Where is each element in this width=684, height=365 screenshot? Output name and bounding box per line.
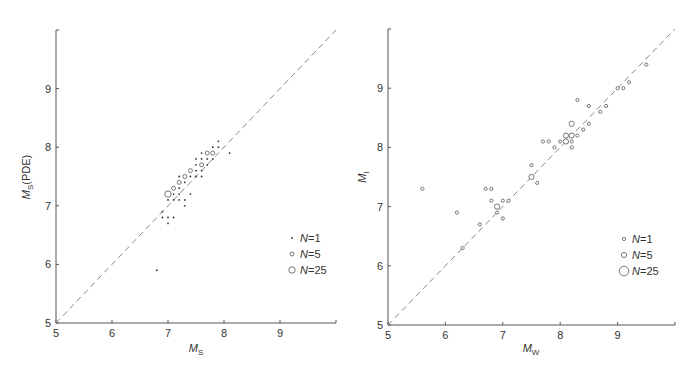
x-tick-label: 6 <box>109 327 115 339</box>
legend-marker-icon <box>622 237 625 240</box>
y-tick-label: 9 <box>377 82 383 94</box>
data-point <box>195 164 197 166</box>
data-point <box>195 170 197 172</box>
data-point <box>455 211 458 214</box>
data-point <box>547 140 550 143</box>
data-point <box>201 158 203 160</box>
left-legend: N=1N=5N=25 <box>289 232 327 276</box>
data-point <box>569 121 574 126</box>
data-point <box>211 151 215 155</box>
right-axes: 5678956789 <box>377 29 675 341</box>
data-point <box>461 246 464 249</box>
data-point <box>188 169 192 173</box>
legend-marker-icon <box>291 237 293 239</box>
data-point <box>173 193 175 195</box>
data-point <box>229 152 231 154</box>
data-point <box>195 158 197 160</box>
data-point <box>495 211 498 214</box>
left-scatter-plot: 5678956789 MS MS(PDE) N=1N=5N=25 <box>20 30 336 357</box>
x-tick-label: 7 <box>500 329 506 341</box>
data-point <box>582 128 585 131</box>
y-tick-label: 6 <box>377 260 383 272</box>
y-tick-label: 5 <box>377 319 383 331</box>
left-x-axis-label: MS <box>189 342 204 357</box>
data-point <box>173 199 175 201</box>
data-point <box>570 140 573 143</box>
data-point <box>184 199 186 201</box>
data-point <box>507 199 510 202</box>
x-tick-label: 5 <box>53 327 59 339</box>
data-point <box>172 186 176 190</box>
data-point <box>616 87 619 90</box>
legend-label: N=25 <box>632 265 659 277</box>
x-tick-label: 9 <box>615 329 621 341</box>
legend-label: N=5 <box>300 248 321 260</box>
data-point <box>570 146 573 149</box>
data-point <box>177 180 181 184</box>
data-point <box>218 146 220 148</box>
y-tick-label: 8 <box>45 141 51 153</box>
data-point <box>206 158 208 160</box>
data-point <box>478 223 481 226</box>
data-point <box>627 81 630 84</box>
data-point <box>178 193 180 195</box>
legend-label: N=5 <box>632 249 653 261</box>
data-point <box>645 63 648 66</box>
legend-marker-icon <box>621 252 626 257</box>
data-point <box>201 176 203 178</box>
data-point <box>484 187 487 190</box>
legend-marker-icon <box>290 252 294 256</box>
left-axes: 5678956789 <box>45 30 336 339</box>
data-point <box>205 151 209 155</box>
right-legend: N=1N=5N=25 <box>619 233 658 277</box>
data-point <box>536 181 539 184</box>
data-point <box>563 133 568 138</box>
data-point <box>195 176 197 178</box>
data-point <box>183 175 187 179</box>
data-point <box>167 199 169 201</box>
data-point <box>622 87 625 90</box>
x-tick-label: 5 <box>385 329 391 341</box>
data-point <box>162 211 164 213</box>
x-tick-label: 8 <box>557 329 563 341</box>
y-tick-label: 7 <box>377 201 383 213</box>
right-data-points <box>421 63 648 250</box>
data-point <box>605 104 608 107</box>
data-point <box>156 269 158 271</box>
data-point <box>490 199 493 202</box>
data-point <box>165 191 171 197</box>
data-point <box>599 110 602 113</box>
right-scatter-plot: 5678956789 MW MI N=1N=5N=25 <box>356 29 675 357</box>
data-point <box>569 133 574 138</box>
legend-label: N=25 <box>300 264 327 276</box>
data-point <box>206 164 208 166</box>
right-x-axis-label: MW <box>523 342 540 357</box>
data-point <box>190 193 192 195</box>
data-point <box>200 163 204 167</box>
legend-label: N=1 <box>632 233 653 245</box>
data-point <box>178 199 180 201</box>
data-point <box>559 140 562 143</box>
left-y-axis-label: MS(PDE) <box>20 155 35 199</box>
y-tick-label: 8 <box>377 141 383 153</box>
data-point <box>494 204 499 209</box>
data-point <box>167 222 169 224</box>
data-point <box>201 170 203 172</box>
y-tick-label: 6 <box>45 258 51 270</box>
data-point <box>190 176 192 178</box>
legend-label: N=1 <box>300 232 321 244</box>
data-point <box>553 146 556 149</box>
data-point <box>218 140 220 142</box>
data-point <box>501 217 504 220</box>
data-point <box>490 187 493 190</box>
x-tick-label: 7 <box>165 327 171 339</box>
data-point <box>178 187 180 189</box>
data-point <box>184 181 186 183</box>
data-point <box>212 158 214 160</box>
data-point <box>541 140 544 143</box>
y-tick-label: 5 <box>45 317 51 329</box>
x-tick-label: 8 <box>221 327 227 339</box>
y-tick-label: 7 <box>45 200 51 212</box>
data-point <box>201 152 203 154</box>
x-tick-label: 9 <box>277 327 283 339</box>
